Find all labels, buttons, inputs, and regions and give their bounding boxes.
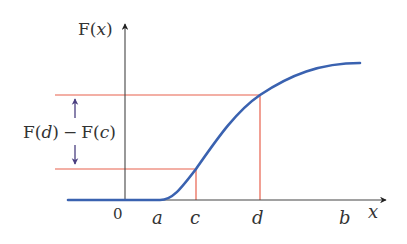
tick-a: a	[152, 207, 163, 228]
tick-b: b	[339, 207, 351, 228]
tick-c: c	[190, 207, 200, 228]
tick-d: d	[252, 207, 264, 228]
reference-lines	[55, 95, 260, 200]
x-axis-label: x	[368, 201, 378, 222]
y-axis-label: F(x)	[78, 19, 113, 39]
cdf-chart: F(x) F(d)−F(c) 0 a c d b x	[0, 0, 407, 244]
origin-label: 0	[113, 205, 123, 223]
difference-label: F(d)−F(c)	[23, 122, 116, 142]
